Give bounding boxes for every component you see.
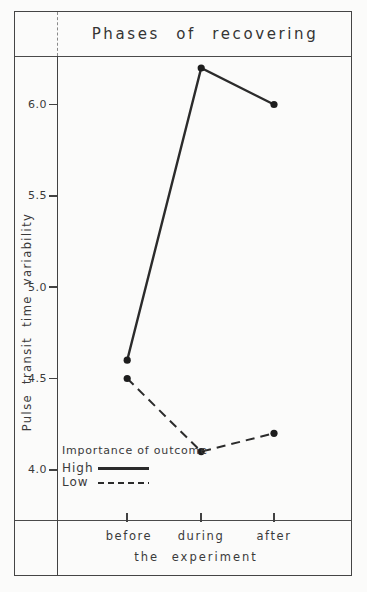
y-tick-mark xyxy=(49,378,57,380)
y-tick-label: 5.5 xyxy=(16,189,47,202)
y-tick-mark xyxy=(49,286,57,288)
y-axis-label: Pulse transit time variability xyxy=(20,213,34,432)
x-category-during: during xyxy=(159,529,243,543)
y-tick-label: 4.0 xyxy=(16,463,47,476)
y-tick-mark xyxy=(49,104,57,106)
legend: Importance of outcome High Low xyxy=(62,444,208,489)
x-category-after: after xyxy=(232,529,316,543)
y-tick-label: 6.0 xyxy=(16,98,47,111)
y-tick-label: 5.0 xyxy=(16,281,47,294)
title-box: Phases of recovering xyxy=(58,12,352,56)
x-axis-label: the experiment xyxy=(112,550,280,564)
legend-label-low: Low xyxy=(62,475,98,489)
y-tick-label: 4.5 xyxy=(16,372,47,385)
legend-label-high: High xyxy=(62,461,98,475)
y-tick-mark xyxy=(49,469,57,471)
y-tick-mark xyxy=(49,195,57,197)
legend-entry-low: Low xyxy=(62,475,208,489)
legend-entry-high: High xyxy=(62,461,208,475)
chart-title: Phases of recovering xyxy=(92,25,319,43)
dashed-line-sample xyxy=(98,482,149,484)
legend-title: Importance of outcome xyxy=(62,444,208,457)
solid-line-sample xyxy=(98,467,149,469)
